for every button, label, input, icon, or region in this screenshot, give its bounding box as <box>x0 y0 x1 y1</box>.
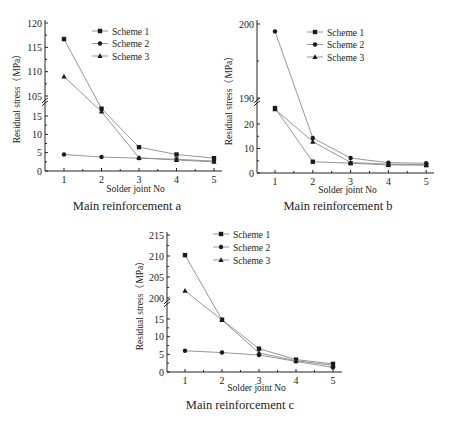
square-legend-icon <box>313 30 317 34</box>
square-marker-icon <box>137 145 141 149</box>
triangle-marker-icon <box>61 74 66 79</box>
y-tick-label: 110 <box>27 66 42 77</box>
y-tick-label: 120 <box>27 18 42 29</box>
y-axis-title: Residual stress（MPa） <box>134 256 145 351</box>
square-marker-icon <box>62 37 66 41</box>
x-tick-label: 2 <box>99 174 104 185</box>
circle-marker-icon <box>183 349 187 353</box>
circle-marker-icon <box>99 155 103 159</box>
y-tick-label: 190 <box>239 93 254 104</box>
legend: Scheme 1Scheme 2Scheme 3 <box>213 230 270 266</box>
x-axis-title: Solder joint No <box>106 184 165 194</box>
x-axis-title: Solder joint No <box>227 383 286 393</box>
x-axis: 12345 <box>45 168 222 185</box>
y-tick-label: 5 <box>37 147 42 158</box>
y-axis: 01020190200 <box>239 19 260 179</box>
circle-legend-icon <box>219 245 223 249</box>
y-tick-label: 15 <box>32 111 42 122</box>
y-tick-label: 5 <box>159 349 164 360</box>
y-tick-label: 15 <box>154 314 164 325</box>
chart-panel-a: 051015105110115120 12345 Scheme 1Scheme … <box>11 18 222 214</box>
circle-marker-icon <box>220 350 224 354</box>
y-tick-label: 20 <box>244 119 254 130</box>
x-tick-label: 5 <box>424 176 429 187</box>
x-tick-label: 4 <box>294 375 299 386</box>
y-tick-label: 0 <box>37 166 42 177</box>
chart-caption: Main reinforcement a <box>73 199 182 213</box>
legend-label: Scheme 2 <box>327 40 364 50</box>
x-tick-label: 4 <box>174 174 179 185</box>
circle-legend-icon <box>313 42 317 46</box>
y-tick-label: 10 <box>244 143 254 154</box>
y-tick-label: 105 <box>27 91 42 102</box>
triangle-marker-icon <box>182 288 187 293</box>
y-tick-label: 200 <box>239 19 254 30</box>
x-tick-label: 1 <box>62 174 67 185</box>
y-axis: 051015200205210215 <box>149 230 170 378</box>
legend-label: Scheme 2 <box>112 39 149 49</box>
y-axis: 051015105110115120 <box>27 18 48 177</box>
series-line <box>275 31 426 163</box>
y-tick-label: 0 <box>159 367 164 378</box>
y-tick-label: 215 <box>149 230 164 241</box>
x-tick-label: 1 <box>183 375 188 386</box>
chart-panel-c: 051015200205210215 12345 Scheme 1Scheme … <box>134 230 342 413</box>
y-tick-label: 200 <box>149 293 164 304</box>
x-axis-title: Solder joint No <box>318 185 377 195</box>
chart-caption: Main reinforcement b <box>284 199 393 213</box>
y-tick-label: 205 <box>149 272 164 283</box>
series-layer <box>182 253 335 370</box>
circle-marker-icon <box>348 156 352 160</box>
circle-marker-icon <box>62 152 66 156</box>
figure-canvas: 051015105110115120 12345 Scheme 1Scheme … <box>0 0 449 428</box>
legend-label: Scheme 1 <box>112 27 149 37</box>
legend: Scheme 1Scheme 2Scheme 3 <box>92 27 149 62</box>
circle-legend-icon <box>98 41 102 45</box>
chart-panel-b: 01020190200 12345 Scheme 1Scheme 2Scheme… <box>223 19 434 214</box>
circle-marker-icon <box>273 29 277 33</box>
x-tick-label: 4 <box>386 176 391 187</box>
legend-label: Scheme 1 <box>233 230 270 240</box>
legend-label: Scheme 1 <box>327 28 364 38</box>
y-tick-label: 0 <box>249 168 254 179</box>
legend-label: Scheme 3 <box>327 53 364 63</box>
y-tick-label: 210 <box>149 251 164 262</box>
y-axis-title: Residual stress（MPa） <box>223 51 234 146</box>
x-tick-label: 2 <box>220 375 225 386</box>
chart-caption: Main reinforcement c <box>186 398 295 412</box>
square-marker-icon <box>311 160 315 164</box>
square-legend-icon <box>98 29 102 33</box>
x-tick-label: 5 <box>212 174 217 185</box>
square-marker-icon <box>174 152 178 156</box>
y-tick-label: 115 <box>27 42 42 53</box>
square-legend-icon <box>219 232 223 236</box>
legend: Scheme 1Scheme 2Scheme 3 <box>307 28 364 63</box>
legend-label: Scheme 3 <box>112 52 149 62</box>
y-tick-label: 10 <box>154 331 164 342</box>
square-marker-icon <box>183 253 187 257</box>
y-tick-label: 10 <box>32 129 42 140</box>
x-tick-label: 2 <box>310 176 315 187</box>
legend-label: Scheme 3 <box>233 256 270 266</box>
x-tick-label: 5 <box>331 375 336 386</box>
x-tick-label: 1 <box>273 176 278 187</box>
y-axis-title: Residual stress（MPa） <box>11 49 22 144</box>
legend-label: Scheme 2 <box>233 243 270 253</box>
